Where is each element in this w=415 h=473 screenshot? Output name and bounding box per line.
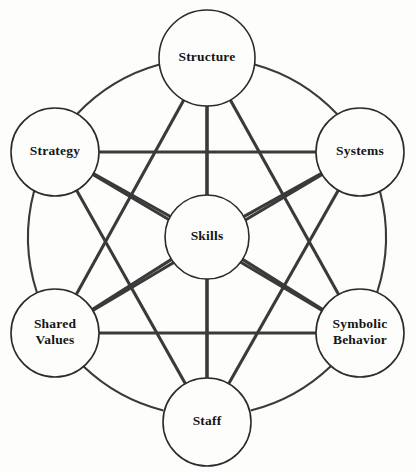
seven-s-diagram: StructureStrategySystemsSkillsSharedValu… — [0, 0, 415, 473]
node-label-line: Strategy — [30, 143, 80, 158]
node-label-strategy: Strategy — [30, 143, 80, 158]
node-skills[interactable]: Skills — [165, 195, 249, 279]
seven-s-canvas: StructureStrategySystemsSkillsSharedValu… — [0, 0, 415, 473]
node-label-line: Shared — [34, 316, 77, 331]
node-systems[interactable]: Systems — [316, 108, 404, 196]
node-label-line: Values — [36, 332, 75, 347]
node-shared[interactable]: SharedValues — [11, 289, 99, 377]
node-staff[interactable]: Staff — [163, 378, 251, 466]
edge-shared-staff — [84, 367, 164, 411]
edge-shared-skills — [92, 259, 171, 309]
node-label-staff: Staff — [193, 413, 222, 428]
node-layer: StructureStrategySystemsSkillsSharedValu… — [11, 10, 404, 466]
node-label-systems: Systems — [336, 143, 384, 158]
node-label-line: Structure — [178, 49, 235, 64]
node-label-line: Staff — [193, 413, 222, 428]
node-label-symbolic: SymbolicBehavior — [333, 316, 388, 347]
node-label-structure: Structure — [178, 49, 235, 64]
node-label-skills: Skills — [191, 228, 224, 243]
edge-symbolic-staff — [251, 366, 331, 410]
edge-structure-systems — [255, 65, 338, 115]
node-label-line: Skills — [191, 228, 224, 243]
node-label-shared: SharedValues — [34, 316, 77, 347]
node-structure[interactable]: Structure — [159, 10, 255, 106]
node-label-line: Systems — [336, 143, 384, 158]
node-label-line: Symbolic — [333, 316, 388, 331]
edge-structure-strategy — [77, 65, 160, 115]
edge-systems-symbolic — [377, 191, 386, 292]
node-label-line: Behavior — [333, 332, 387, 347]
node-symbolic[interactable]: SymbolicBehavior — [316, 289, 404, 377]
edge-strategy-shared — [28, 190, 37, 292]
node-strategy[interactable]: Strategy — [11, 108, 99, 196]
